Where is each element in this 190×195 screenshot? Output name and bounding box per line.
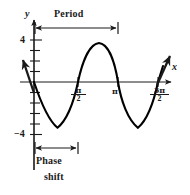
x-tick-label-pi-over-2: π 2 [71,86,86,104]
y-tick-label-minus-4: −4 [14,129,25,139]
x-tick-pi-over-2-denominator: 2 [71,95,86,103]
left-direction-arrow [23,60,34,93]
right-direction-arrow [157,56,170,85]
x-axis-label: x [172,62,177,72]
y-axis-label: y [25,9,29,19]
y-tick-label-4: 4 [20,35,25,45]
phase-shift-label-line2: shift [44,172,64,182]
period-arrow [35,22,118,34]
sine-curve [34,43,163,128]
phase-shift-label-line1: Phase [36,156,62,166]
sine-curve-figure: y x 4 −4 π 2 π 3π 2 Period Phase shift [0,0,190,195]
x-tick-label-pi: π [112,87,118,95]
x-tick-label-3pi-over-2: 3π 2 [150,86,169,104]
phase-shift-arrow [35,142,78,154]
x-tick-3pi-over-2-denominator: 2 [150,95,169,103]
period-label: Period [54,9,84,19]
